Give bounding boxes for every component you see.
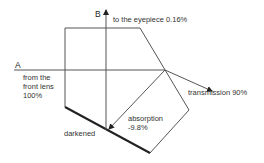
absorption-label-line2: -9.8% (128, 123, 148, 132)
transmission-label: transmission 90% (188, 88, 247, 97)
eyepiece-label: to the eyepiece 0.16% (113, 15, 187, 24)
beam-a-label: A (15, 61, 21, 70)
front-lens-label-line2: front lens (23, 82, 54, 91)
beam-b-label: B (95, 10, 101, 19)
darkened-label: darkened (64, 129, 95, 138)
front-lens-label-line1: from the (23, 73, 51, 82)
absorption-label-line1: absorption (128, 114, 163, 123)
front-lens-label-line3: 100% (23, 91, 42, 100)
